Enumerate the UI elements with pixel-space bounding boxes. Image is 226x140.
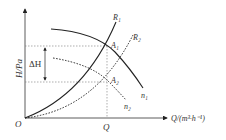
label-n1: n₁ xyxy=(141,91,148,100)
x-axis-label: Q/(m³·h⁻¹) xyxy=(171,114,205,123)
label-r1: R₁ xyxy=(112,13,121,22)
label-a2: A₂ xyxy=(110,76,119,85)
delta-h-label: ΔH xyxy=(29,59,42,69)
pump-curve-diagram: H/Pa Q/(m³·h⁻¹) O Q ΔH R₁ R₂ n₁ n₂ A₁ A₂ xyxy=(0,0,226,140)
origin-label: O xyxy=(15,119,22,129)
label-n2: n₂ xyxy=(124,102,131,111)
label-r2: R₂ xyxy=(132,33,141,42)
q-tick-label: Q xyxy=(103,122,110,132)
y-axis-label: H/Pa xyxy=(14,59,24,79)
label-a1: A₁ xyxy=(110,41,119,50)
